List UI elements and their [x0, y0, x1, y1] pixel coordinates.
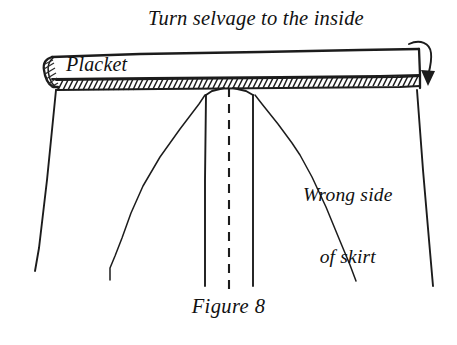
- skirt-left-side-seam: [35, 90, 56, 271]
- figure-caption: Figure 8: [0, 296, 457, 317]
- annotation-placket: Placket: [66, 54, 127, 75]
- skirt-left-drape-line: [110, 95, 205, 280]
- annotation-turn-selvage: Turn selvage to the inside: [148, 8, 364, 29]
- annotation-wrong-side-line1: Wrong side: [303, 185, 393, 206]
- figure-illustration: Turn selvage to the inside Placket Wrong…: [0, 0, 457, 345]
- annotation-wrong-side-line2: of skirt: [303, 247, 393, 268]
- turn-arrow-head: [421, 70, 435, 86]
- placket-left-edge: [205, 95, 206, 286]
- skirt-right-side-seam: [417, 90, 433, 286]
- left-end-cap-hatching: [44, 60, 58, 87]
- waistband-right-end: [419, 49, 420, 88]
- annotation-wrong-side-of-skirt: Wrong side of skirt: [303, 144, 393, 309]
- center-placket-strip: [205, 88, 253, 290]
